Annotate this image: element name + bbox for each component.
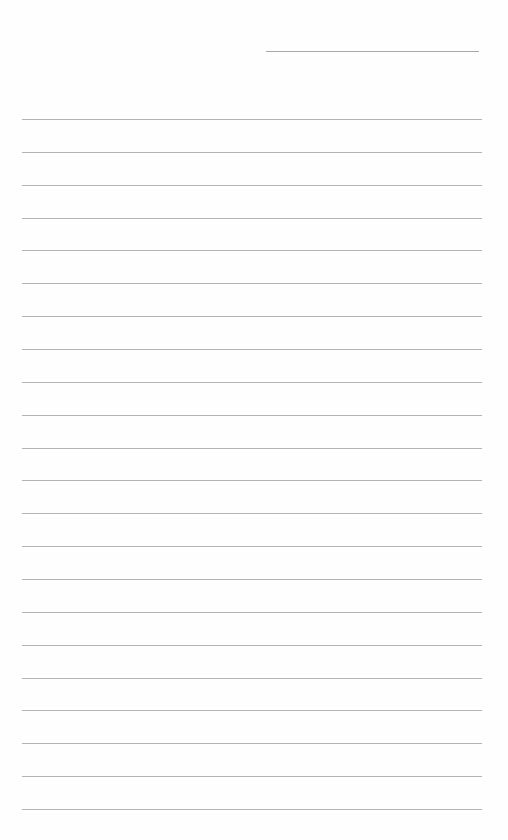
- ruled-line: [22, 448, 482, 449]
- ruled-line: [22, 480, 482, 481]
- lined-paper-page: [0, 0, 508, 840]
- ruled-line: [22, 809, 482, 810]
- ruled-line: [22, 579, 482, 580]
- ruled-line: [22, 119, 482, 120]
- ruled-line: [22, 283, 482, 284]
- ruled-line: [22, 776, 482, 777]
- ruled-line: [22, 415, 482, 416]
- ruled-line: [22, 546, 482, 547]
- ruled-line: [22, 645, 482, 646]
- ruled-line: [22, 218, 482, 219]
- header-name-line: [266, 51, 479, 52]
- ruled-line: [22, 349, 482, 350]
- ruled-line: [22, 185, 482, 186]
- ruled-line: [22, 678, 482, 679]
- ruled-line: [22, 382, 482, 383]
- ruled-line: [22, 743, 482, 744]
- ruled-line: [22, 710, 482, 711]
- ruled-line: [22, 316, 482, 317]
- ruled-line: [22, 513, 482, 514]
- ruled-line: [22, 152, 482, 153]
- ruled-line: [22, 612, 482, 613]
- ruled-line: [22, 250, 482, 251]
